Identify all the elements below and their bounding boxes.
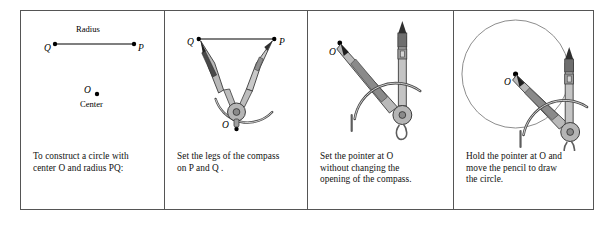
caption-line: To construct a circle with — [33, 151, 156, 163]
panel-3-illustration: O — [308, 11, 453, 151]
point-p-label: P — [138, 43, 144, 53]
point-o-label: O — [329, 47, 336, 57]
panel-4-illustration: O — [454, 11, 595, 151]
caption-line: Set the pointer at O — [320, 151, 445, 163]
panel-1-caption: To construct a circle with center O and … — [33, 151, 156, 174]
point-q-label: Q — [44, 43, 51, 53]
center-label: Center — [80, 99, 103, 109]
panel-3-caption: Set the pointer at O without changing th… — [320, 151, 445, 186]
caption-line: center O and radius PQ: — [33, 163, 156, 175]
panel-2-illustration: Q P O — [165, 11, 307, 151]
panel-step-3: O Set the pointer at O without changing … — [307, 11, 453, 209]
panel-2-caption: Set the legs of the compass on P and Q . — [177, 151, 299, 174]
caption-line: move the pencil to draw — [466, 163, 587, 175]
panel-step-1: Radius Q P O Center To construct a circl… — [21, 11, 164, 209]
caption-line: the circle. — [466, 174, 587, 186]
radius-title-label: Radius — [76, 24, 100, 34]
caption-line: Set the legs of the compass — [177, 151, 299, 163]
caption-line: on P and Q . — [177, 163, 299, 175]
point-o-label: O — [222, 120, 229, 130]
point-o-label: O — [504, 77, 511, 87]
panel-step-4: O Hold the pointer at O and move the pen… — [453, 11, 595, 209]
point-p-label: P — [279, 37, 285, 47]
caption-line: opening of the compass. — [320, 174, 445, 186]
panel-step-2: Q P O Set the legs of the compass on P a… — [164, 11, 307, 209]
caption-line: Hold the pointer at O and — [466, 151, 587, 163]
panel-4-caption: Hold the pointer at O and move the penci… — [466, 151, 587, 186]
panel-1-illustration: Radius Q P O Center — [21, 11, 164, 151]
construction-figure-frame: Radius Q P O Center To construct a circl… — [20, 10, 594, 210]
point-q-label: Q — [187, 37, 194, 47]
caption-line: without changing the — [320, 163, 445, 175]
point-o-label: O — [84, 85, 91, 95]
